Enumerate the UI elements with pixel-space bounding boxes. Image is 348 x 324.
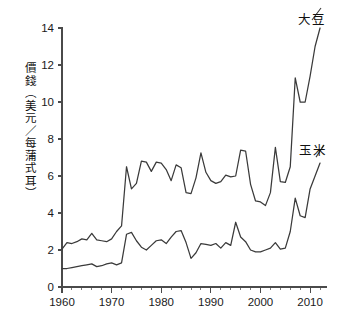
x-axis-ticks (62, 287, 320, 293)
x-tick-label: 1960 (49, 296, 75, 308)
x-tick-label: 2000 (248, 296, 274, 308)
y-tick-label: 0 (48, 281, 54, 293)
series-label-corn: 玉米 (299, 140, 326, 159)
y-axis-ticks (58, 28, 63, 287)
series-label-soybean: 大豆 (298, 9, 325, 28)
y-tick-label: 12 (41, 59, 54, 71)
y-axis-tick-labels: 02468101214 (41, 22, 54, 293)
x-tick-label: 1990 (198, 296, 224, 308)
y-tick-label: 10 (41, 96, 54, 108)
y-axis-title: 價錢（美元／每蒲式耳） (14, 62, 36, 252)
soybean-price-line (62, 28, 320, 249)
y-tick-label: 8 (48, 133, 54, 145)
x-axis-tick-labels: 196019701980199020002010 (49, 296, 323, 308)
x-tick-label: 2010 (297, 296, 323, 308)
corn-price-line (62, 163, 320, 268)
y-tick-label: 2 (48, 244, 54, 256)
y-tick-label: 14 (41, 22, 54, 34)
x-tick-label: 1980 (148, 296, 174, 308)
y-tick-label: 6 (48, 170, 54, 182)
price-line-chart: 02468101214 196019701980199020002010 (0, 0, 348, 324)
x-tick-label: 1970 (99, 296, 125, 308)
y-tick-label: 4 (48, 207, 55, 219)
chart-container: 02468101214 196019701980199020002010 價錢（… (0, 0, 348, 324)
